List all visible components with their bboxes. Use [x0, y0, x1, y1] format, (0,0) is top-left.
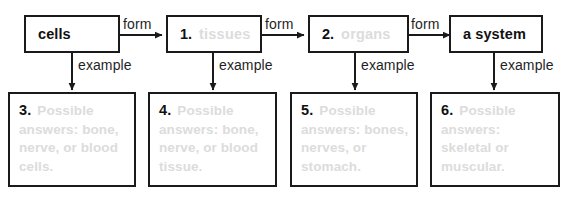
- bottom-box-6-content: 6.Possible answers: skeletal or muscular…: [441, 101, 552, 176]
- connector-label-example-2: example: [219, 57, 273, 73]
- bottom-box-4-number: 4.: [159, 102, 171, 118]
- bottom-box-5-answer: Possible answers: bones, nerves, or stom…: [301, 103, 408, 174]
- bottom-box-3-number: 3.: [19, 102, 31, 118]
- bottom-box-4[interactable]: 4.Possible answers: bone, nerve, or bloo…: [148, 92, 277, 187]
- connector-label-form-1: form: [123, 16, 151, 32]
- top-box-1-number: 1.: [180, 26, 192, 42]
- top-box-1[interactable]: 1. tissues: [166, 15, 262, 53]
- flow-diagram: cells 1. tissues 2. organs a system form…: [0, 0, 564, 198]
- top-box-2-answer: organs: [341, 26, 391, 42]
- connector-label-form-3: form: [411, 16, 439, 32]
- bottom-box-6-number: 6.: [441, 102, 453, 118]
- bottom-box-5-content: 5.Possible answers: bones, nerves, or st…: [301, 101, 410, 176]
- top-box-system-label: a system: [463, 26, 526, 42]
- bottom-box-5-number: 5.: [301, 102, 313, 118]
- top-box-system: a system: [449, 15, 543, 53]
- bottom-box-6[interactable]: 6.Possible answers: skeletal or muscular…: [430, 92, 560, 187]
- bottom-box-4-answer: Possible answers: bone, nerve, or blood …: [159, 103, 259, 174]
- bottom-box-5[interactable]: 5.Possible answers: bones, nerves, or st…: [290, 92, 418, 187]
- bottom-box-3-answer: Possible answers: bone, nerve, or blood …: [19, 103, 119, 174]
- top-box-1-answer: tissues: [199, 26, 250, 42]
- top-box-2-number: 2.: [322, 26, 334, 42]
- connector-label-form-2: form: [265, 16, 293, 32]
- top-box-2[interactable]: 2. organs: [308, 15, 409, 53]
- connector-label-example-3: example: [361, 57, 415, 73]
- bottom-box-3-content: 3.Possible answers: bone, nerve, or bloo…: [19, 101, 128, 176]
- bottom-box-4-content: 4.Possible answers: bone, nerve, or bloo…: [159, 101, 269, 176]
- top-box-cells-label: cells: [38, 26, 71, 42]
- bottom-box-3[interactable]: 3.Possible answers: bone, nerve, or bloo…: [8, 92, 136, 187]
- top-box-cells: cells: [24, 15, 120, 53]
- connector-label-example-1: example: [78, 57, 132, 73]
- connector-label-example-4: example: [500, 57, 554, 73]
